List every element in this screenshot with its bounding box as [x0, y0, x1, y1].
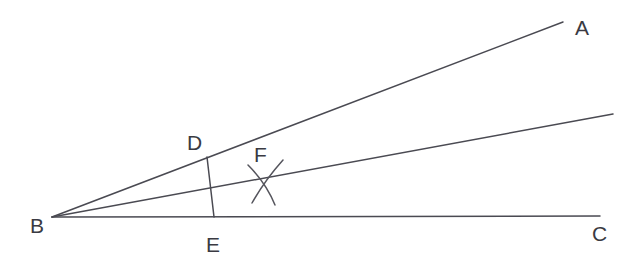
ray-ba: [52, 22, 563, 217]
construction-arc-from-d: [248, 165, 275, 205]
geometry-canvas: A B C D E F: [0, 0, 630, 277]
point-label-f: F: [254, 143, 267, 166]
point-label-c: C: [592, 222, 607, 245]
geometry-diagram: A B C D E F: [0, 0, 630, 277]
point-label-b: B: [30, 214, 44, 237]
ray-bc: [52, 216, 600, 217]
ray-bisector: [52, 114, 613, 217]
point-label-d: D: [187, 131, 202, 154]
point-label-e: E: [206, 233, 220, 256]
point-label-a: A: [575, 16, 589, 39]
construction-arc-from-e: [252, 160, 283, 203]
